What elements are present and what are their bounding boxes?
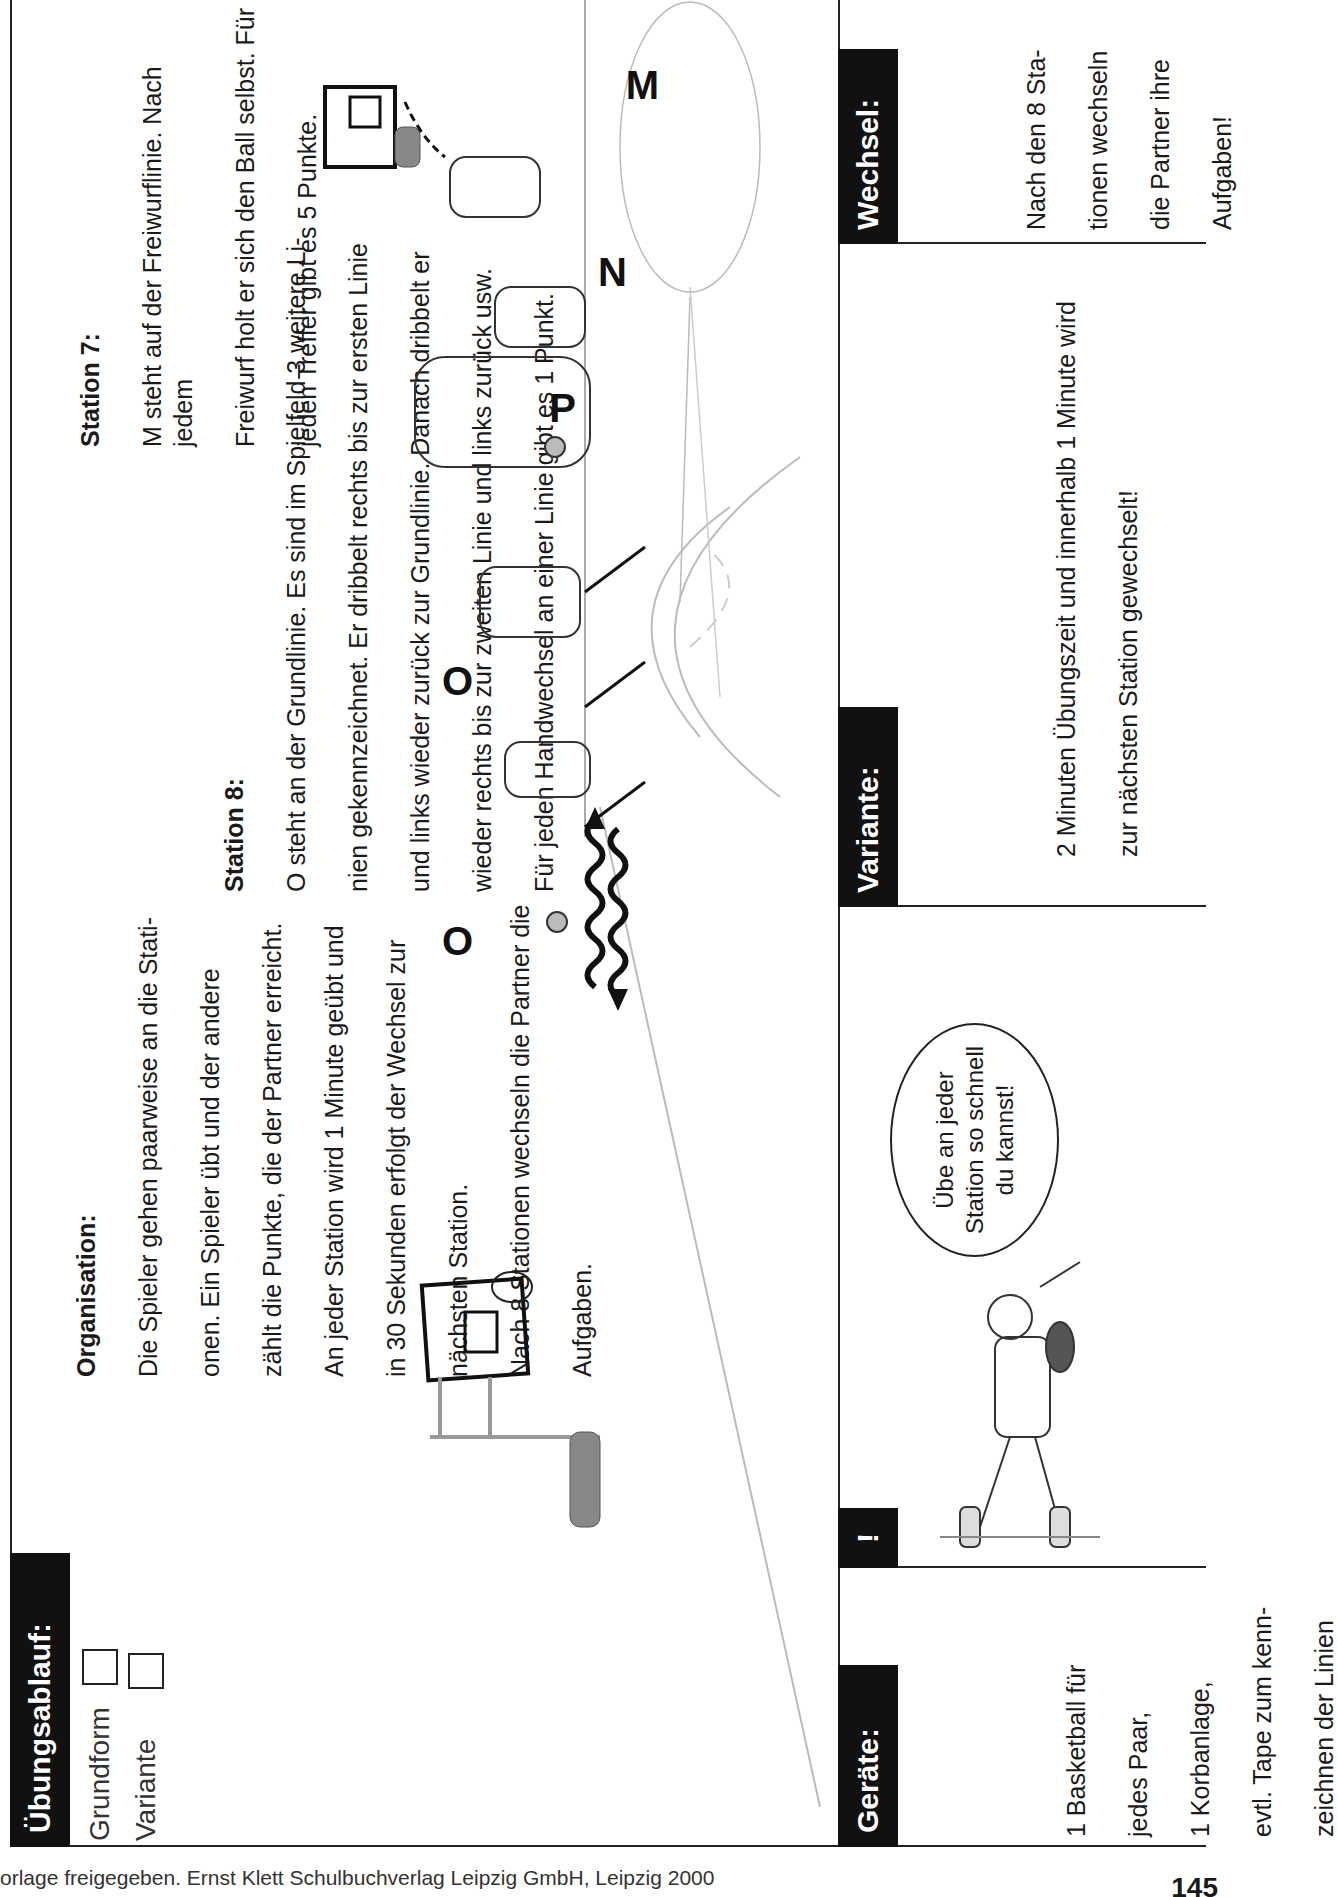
text-line: Übe an jeder [930,1071,960,1208]
player-label-o: O [442,919,473,964]
switch-header: Wechsel: [838,49,898,244]
text-line: die Partner ihre [1145,49,1176,230]
text-line: zur nächsten Station gewechselt! [1113,301,1144,857]
page-number: 145 [1171,1872,1218,1897]
exclamation-icon: ! [851,1533,885,1543]
text-line: 1 Basketball für [1061,1607,1092,1837]
text-line: zeichnen der Linien [1309,1607,1338,1837]
player-figures [415,157,590,932]
player-label-m: M [626,63,659,108]
equipment-header: Geräte: [838,1665,898,1847]
equipment-title: Geräte: [851,1728,885,1833]
coach-megaphone-illustration [900,1247,1200,1547]
court-illustration [0,0,838,1847]
variant-header: Variante: [838,707,898,907]
text-line: 1 Korbanlage, [1185,1607,1216,1837]
text-line: Station so schnell [960,1046,990,1234]
speech-bubble: Übe an jeder Station so schnell du kanns… [890,1023,1059,1257]
player-label-o: O [442,659,473,704]
copyright-footer: orlage freigegeben. Ernst Klett Schulbuc… [0,1866,714,1890]
hint-header: ! [838,1508,898,1568]
text-line: tionen wechseln [1083,49,1114,230]
worksheet-page: Übungsablauf: Grundform Variante Organis… [0,0,1206,1847]
player-label-p: P [549,386,576,431]
text-line: du kannst! [990,1085,1020,1196]
player-label-n: N [598,250,627,295]
equipment-text: 1 Basketball für jedes Paar, 1 Korbanlag… [1030,1607,1338,1837]
switch-text: Nach den 8 Sta- tionen wechseln die Part… [990,49,1269,230]
panel-row-divider [838,0,840,1847]
variant-title: Variante: [851,766,885,893]
switch-title: Wechsel: [851,99,885,230]
text-line: Aufgaben! [1207,49,1238,230]
variant-text: 2 Minuten Übungszeit und innerhalb 1 Min… [1020,301,1175,857]
text-line: 2 Minuten Übungszeit und innerhalb 1 Min… [1051,301,1082,857]
text-line: evtl. Tape zum kenn- [1247,1607,1278,1837]
text-line: jedes Paar, [1123,1607,1154,1837]
text-line: Nach den 8 Sta- [1021,49,1052,230]
